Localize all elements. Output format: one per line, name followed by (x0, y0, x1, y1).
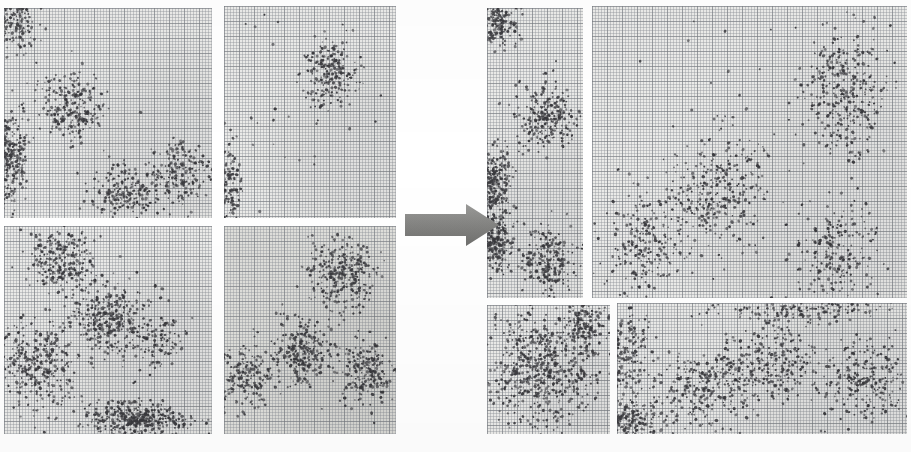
scatter-points-layer (592, 6, 907, 298)
panel-left-bottom-right (224, 226, 396, 434)
panel-left-top-right (224, 6, 396, 218)
scatter-points-layer (224, 6, 396, 218)
panel-right-top-right (592, 6, 907, 298)
panel-right-bottom-right (617, 303, 907, 434)
arrow-shape (405, 204, 499, 246)
panel-right-top-left (487, 8, 583, 298)
figure-title: Cluster scatter plots before and after t… (0, 21, 1, 22)
scatter-points-layer (4, 8, 212, 218)
scatter-points-layer (487, 8, 583, 298)
panel-left-top-left (4, 8, 212, 218)
scatter-points-layer (4, 226, 212, 434)
scatter-points-layer (224, 226, 396, 434)
scatter-points-layer (617, 303, 907, 434)
scatter-points-layer (487, 305, 610, 434)
transition-arrow (404, 203, 500, 247)
panel-left-bottom-left (4, 226, 212, 434)
figure-canvas: Cluster scatter plots before and after t… (0, 0, 911, 452)
panel-right-bottom-left (487, 305, 610, 434)
